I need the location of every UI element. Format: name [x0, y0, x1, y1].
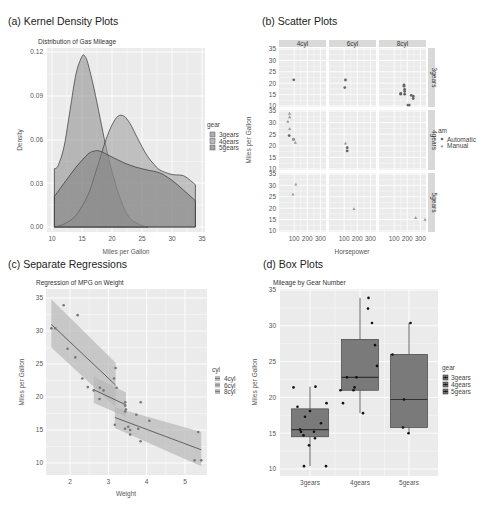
jitter-point — [302, 434, 305, 437]
legend-label: 8cyl — [224, 388, 236, 396]
point-automatic — [292, 78, 295, 81]
y-tick-label: 25 — [36, 360, 44, 367]
x-tick-label: 35 — [198, 235, 206, 242]
data-point — [129, 429, 132, 432]
legend-key-point — [445, 384, 447, 386]
legend-label: 5gears — [451, 388, 472, 396]
x-tick-label: 300 — [415, 235, 426, 242]
legend-label: 5gears — [219, 144, 240, 152]
point-automatic — [408, 104, 411, 107]
x-axis-label: Weight — [116, 490, 136, 498]
facet-strip-label: 4gears — [430, 130, 438, 151]
x-tick-label: 4 — [145, 478, 149, 485]
facet-strip-label: 6cyl — [347, 40, 359, 48]
jitter-point — [409, 322, 412, 325]
point-automatic — [288, 134, 291, 137]
jitter-point — [367, 297, 370, 300]
y-tick-label: 30 — [269, 182, 277, 189]
y-tick-label: 35 — [269, 107, 277, 114]
figure-root: (a) Kernel Density PlotsDistribution of … — [0, 0, 492, 512]
jitter-point — [325, 465, 328, 468]
x-tick-label: 300 — [365, 235, 376, 242]
data-point — [92, 389, 95, 392]
chart-title: Distribution of Gas Mileage — [38, 38, 116, 46]
jitter-point — [391, 353, 394, 356]
y-tick-label: 10 — [36, 459, 44, 466]
jitter-point — [371, 322, 374, 325]
panel-title: (c) Separate Regressions — [8, 258, 127, 270]
data-point — [76, 314, 79, 317]
y-axis-label: Miles per Gallon — [251, 358, 259, 405]
data-point — [124, 404, 127, 407]
data-point — [54, 327, 57, 330]
panel-title: (b) Scatter Plots — [262, 15, 337, 27]
jitter-point — [352, 389, 355, 392]
jitter-point — [403, 398, 406, 401]
chart-title: Mileage by Gear Number — [273, 279, 346, 287]
data-point — [81, 377, 84, 380]
x-tick-label: 200 — [352, 235, 363, 242]
y-tick-label: 15 — [269, 154, 277, 161]
jitter-point — [407, 432, 410, 435]
x-tick-label: 3 — [107, 478, 111, 485]
data-point — [114, 423, 117, 426]
jitter-point — [313, 430, 316, 433]
x-tick-label: 5 — [183, 478, 187, 485]
jitter-point — [367, 307, 370, 310]
jitter-point — [374, 344, 377, 347]
y-tick-label: 25 — [269, 68, 277, 75]
legend-key-point — [445, 391, 447, 393]
legend-key-automatic — [441, 138, 444, 141]
jitter-point — [362, 412, 365, 415]
x-tick-label: 100 — [389, 235, 400, 242]
x-tick-label: 30 — [168, 235, 176, 242]
x-tick-label: 5gears — [399, 479, 420, 487]
legend-title: cyl — [212, 366, 221, 374]
y-axis-label: Density — [16, 128, 24, 150]
x-tick-label: 100 — [339, 235, 350, 242]
jitter-point — [296, 405, 299, 408]
x-tick-label: 15 — [78, 235, 86, 242]
y-tick-label: 0.09 — [30, 92, 43, 99]
data-point — [200, 459, 203, 462]
facet-strip-label: 8cyl — [397, 40, 409, 48]
x-tick-label: 100 — [289, 235, 300, 242]
jitter-point — [304, 415, 307, 418]
data-point — [98, 398, 101, 401]
jitter-point — [292, 386, 295, 389]
jitter-point — [314, 385, 317, 388]
y-tick-label: 15 — [269, 91, 277, 98]
jitter-point — [314, 437, 317, 440]
panel-b-scatter: (b) Scatter Plots4cyl6cyl8cyl3gears10152… — [245, 15, 477, 256]
data-point — [99, 386, 102, 389]
y-tick-label: 35 — [269, 170, 277, 177]
y-tick-label: 10 — [269, 227, 277, 234]
legend-title: am — [438, 127, 447, 134]
jitter-point — [303, 465, 306, 468]
jitter-point — [355, 376, 358, 379]
point-automatic — [399, 93, 402, 96]
y-tick-label: 25 — [269, 193, 277, 200]
data-point — [87, 386, 90, 389]
jitter-point — [339, 389, 342, 392]
jitter-point — [309, 410, 312, 413]
jitter-point — [376, 365, 379, 368]
data-point — [148, 419, 151, 422]
jitter-point — [402, 426, 405, 429]
x-tick-label: 4gears — [350, 479, 371, 487]
legend-title: gear — [207, 121, 221, 129]
legend-key-4gears — [210, 139, 215, 144]
x-tick-label: 200 — [402, 235, 413, 242]
y-tick-label: 10 — [269, 465, 277, 472]
box-4gears — [342, 339, 379, 390]
data-point — [102, 389, 105, 392]
point-automatic — [412, 97, 415, 100]
y-tick-label: 0.06 — [30, 136, 43, 143]
jitter-point — [325, 402, 328, 405]
facet-strip-label: 3gears — [430, 68, 438, 89]
x-axis-label: Miles per Gallon — [103, 248, 150, 256]
y-tick-label: 0.00 — [30, 223, 43, 230]
data-point — [197, 431, 200, 434]
y-tick-label: 0.03 — [30, 180, 43, 187]
y-tick-label: 35 — [269, 286, 277, 293]
